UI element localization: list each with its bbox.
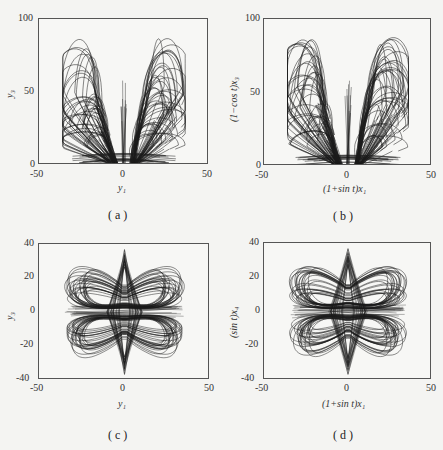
xtick-d-neg50: -50: [255, 382, 268, 393]
xtick-a-neg50: -50: [30, 168, 43, 179]
plot-area-a: [38, 18, 208, 164]
butterfly-attractor-a: [39, 19, 208, 164]
xtick-c-neg50: -50: [30, 382, 43, 393]
ytick-c-20: 20: [24, 270, 34, 281]
xtick-a-0: 0: [120, 168, 125, 179]
ylabel-a: y₃: [4, 90, 15, 98]
caption-d: ( d ): [333, 428, 353, 443]
ytick-d-neg40: -40: [241, 372, 254, 383]
ytick-a-100: 100: [18, 12, 33, 23]
caption-c: ( c ): [108, 428, 127, 443]
ytick-d-20: 20: [249, 270, 259, 281]
ytick-d-neg20: -20: [245, 338, 258, 349]
xlabel-c: y₁: [118, 398, 126, 409]
xlabel-a: y₁: [118, 182, 126, 193]
hourglass-attractor-d: [264, 243, 431, 379]
ytick-c-neg20: -20: [20, 338, 33, 349]
xlabel-d: (1+sin t)x₁: [322, 398, 365, 409]
xtick-b-neg50: -50: [255, 169, 268, 180]
ylabel-d: (sin t)x₄: [228, 306, 239, 338]
xtick-b-50: 50: [426, 169, 436, 180]
caption-b: ( b ): [333, 209, 353, 224]
xtick-d-50: 50: [426, 382, 436, 393]
ytick-b-100: 100: [245, 12, 260, 23]
ytick-c-40: 40: [24, 237, 34, 248]
ytick-c-0: 0: [30, 304, 35, 315]
xtick-c-0: 0: [120, 382, 125, 393]
ytick-d-0: 0: [255, 304, 260, 315]
plot-area-d: [263, 242, 431, 379]
xlabel-b: (1+sin t)x₁: [323, 183, 366, 194]
caption-a: ( a ): [108, 208, 127, 223]
xtick-b-0: 0: [344, 169, 349, 180]
hourglass-attractor-c: [39, 244, 209, 379]
plot-area-b: [263, 18, 431, 165]
ylabel-b: (1−cos t)x₃: [228, 77, 239, 122]
xtick-d-0: 0: [344, 382, 349, 393]
ytick-d-40: 40: [249, 236, 259, 247]
plot-area-c: [38, 243, 209, 379]
ytick-a-50: 50: [24, 85, 34, 96]
butterfly-attractor-b: [264, 19, 431, 165]
ytick-c-neg40: -40: [16, 372, 29, 383]
ylabel-c: y₃: [4, 312, 15, 320]
xtick-a-50: 50: [202, 168, 212, 179]
ytick-b-50: 50: [250, 86, 260, 97]
xtick-c-50: 50: [204, 382, 214, 393]
